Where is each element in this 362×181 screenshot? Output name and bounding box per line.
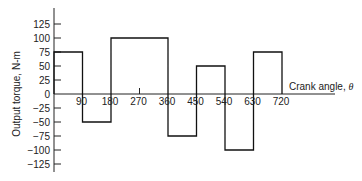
y-tick-label: −75 bbox=[33, 131, 50, 142]
y-tick-label: 50 bbox=[39, 61, 51, 72]
x-tick-label: 720 bbox=[273, 96, 290, 107]
y-tick-label: −50 bbox=[33, 117, 50, 128]
x-tick-label: 630 bbox=[244, 96, 261, 107]
y-tick-label: −25 bbox=[33, 103, 50, 114]
y-tick-label: 25 bbox=[39, 75, 51, 86]
x-tick-label: 90 bbox=[76, 96, 88, 107]
y-tick-label: 75 bbox=[39, 47, 51, 58]
x-tick-label: 270 bbox=[130, 96, 147, 107]
y-tick-label: 100 bbox=[33, 33, 50, 44]
chart: 1251007550250−25−50−75−100−1259018027036… bbox=[0, 0, 362, 181]
y-tick-label: 0 bbox=[44, 89, 50, 100]
x-axis-label: Crank angle, θ bbox=[289, 81, 353, 92]
y-tick-label: −125 bbox=[27, 159, 50, 170]
x-tick-label: 450 bbox=[187, 96, 204, 107]
y-axis-label: Output torque, N-m bbox=[11, 51, 22, 137]
y-tick-label: 125 bbox=[33, 19, 50, 30]
x-tick-label: 180 bbox=[102, 96, 119, 107]
x-tick-label: 360 bbox=[159, 96, 176, 107]
y-tick-label: −100 bbox=[27, 145, 50, 156]
x-tick-label: 540 bbox=[216, 96, 233, 107]
